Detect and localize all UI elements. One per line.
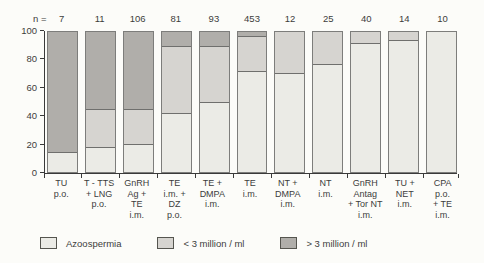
y-tick-label: 40 bbox=[0, 110, 37, 121]
segment-3-million-ml bbox=[124, 109, 153, 144]
n-value-label: 7 bbox=[59, 13, 64, 24]
legend-swatch-gt3million bbox=[280, 237, 297, 249]
segment-3-million-ml bbox=[86, 32, 115, 109]
legend-swatch-lt3million bbox=[157, 237, 174, 249]
segment-azoospermia bbox=[86, 147, 115, 172]
x-tick-mark bbox=[44, 174, 45, 178]
n-value-label: 25 bbox=[323, 13, 334, 24]
segment-3-million-ml bbox=[162, 46, 191, 113]
bar-nt-i-m bbox=[312, 31, 343, 173]
category-label-te-dmpa-i-m: TE +DMPAi.m. bbox=[197, 178, 228, 220]
n-value-label: 12 bbox=[285, 13, 296, 24]
n-value-label: 10 bbox=[437, 13, 448, 24]
segment-azoospermia bbox=[427, 32, 456, 172]
n-value-label: 81 bbox=[171, 13, 182, 24]
n-value-label: 14 bbox=[399, 13, 410, 24]
n-value-label: 106 bbox=[130, 13, 146, 24]
legend-item-lt3million: < 3 million / ml bbox=[157, 237, 244, 249]
bars-container bbox=[47, 31, 457, 173]
sperm-suppression-stacked-bar-chart: n = 71110681934531225401410 020406080100… bbox=[0, 0, 484, 263]
y-tick-label: 100 bbox=[0, 25, 37, 36]
bar-te-dmpa-i-m bbox=[199, 31, 230, 173]
bar-tu-p-o bbox=[47, 31, 78, 173]
n-value-label: 453 bbox=[244, 13, 260, 24]
segment-3-million-ml bbox=[238, 36, 267, 71]
segment-azoospermia bbox=[124, 144, 153, 172]
bar-te-i-m-dz-p-o bbox=[161, 31, 192, 173]
bar-tu-net-i-m bbox=[388, 31, 419, 173]
y-tick-label: 0 bbox=[0, 167, 37, 178]
segment-3-million-ml bbox=[200, 32, 229, 46]
segment-azoospermia bbox=[238, 71, 267, 172]
segment-3-million-ml bbox=[275, 32, 304, 73]
segment-3-million-ml bbox=[351, 32, 380, 43]
legend-swatch-azoospermia bbox=[40, 237, 57, 249]
n-value-label: 40 bbox=[361, 13, 372, 24]
n-prefix-label: n = bbox=[33, 13, 46, 24]
y-tick-label: 80 bbox=[0, 53, 37, 64]
y-tick-label: 20 bbox=[0, 139, 37, 150]
category-labels-row: TUp.o.T - TTS+ LNGp.o.GnRHAg +TEi.m.TEi.… bbox=[46, 178, 458, 220]
bar-cpa-p-o-te-i-m bbox=[426, 31, 457, 173]
category-label-tu-p-o: TUp.o. bbox=[46, 178, 77, 220]
bar-nt-dmpa-i-m bbox=[274, 31, 305, 173]
bar-gnrh-ag-te-i-m bbox=[123, 31, 154, 173]
bar-te-i-m bbox=[237, 31, 268, 173]
legend-item-gt3million: > 3 million / ml bbox=[280, 237, 367, 249]
category-label-tu-net-i-m: TU +NETi.m. bbox=[389, 178, 420, 220]
segment-3-million-ml bbox=[313, 32, 342, 64]
n-value-label: 93 bbox=[209, 13, 220, 24]
category-label-te-i-m-dz-p-o: TEi.m. +DZp.o. bbox=[159, 178, 190, 220]
legend-label-lt3million: < 3 million / ml bbox=[183, 238, 244, 249]
y-tick-label: 60 bbox=[0, 82, 37, 93]
legend-item-azoospermia: Azoospermia bbox=[40, 237, 121, 249]
segment-3-million-ml bbox=[389, 32, 418, 40]
legend: Azoospermia < 3 million / ml > 3 million… bbox=[40, 237, 367, 249]
segment-azoospermia bbox=[200, 102, 229, 172]
segment-azoospermia bbox=[275, 73, 304, 172]
legend-label-gt3million: > 3 million / ml bbox=[306, 238, 367, 249]
bar-t-tts-lng-p-o bbox=[85, 31, 116, 173]
segment-azoospermia bbox=[351, 43, 380, 172]
x-tick-mark bbox=[458, 174, 459, 178]
legend-label-azoospermia: Azoospermia bbox=[66, 238, 121, 249]
segment-azoospermia bbox=[48, 152, 77, 172]
category-label-nt-i-m: NTi.m. bbox=[310, 178, 341, 220]
category-label-te-i-m: TEi.m. bbox=[235, 178, 266, 220]
segment-3-million-ml bbox=[48, 32, 77, 152]
category-label-t-tts-lng-p-o: T - TTS+ LNGp.o. bbox=[84, 178, 115, 220]
n-value-label: 11 bbox=[95, 13, 105, 24]
segment-3-million-ml bbox=[200, 46, 229, 102]
segment-azoospermia bbox=[162, 113, 191, 172]
category-label-cpa-p-o-te-i-m: CPAp.o.+ TEi.m. bbox=[427, 178, 458, 220]
plot-area bbox=[44, 31, 457, 174]
category-label-gnrh-antag-tor-nt-i-m: GnRHAntag+ Tor NTi.m. bbox=[348, 178, 383, 220]
segment-3-million-ml bbox=[86, 109, 115, 147]
segment-3-million-ml bbox=[162, 32, 191, 46]
segment-azoospermia bbox=[313, 64, 342, 172]
segment-azoospermia bbox=[389, 40, 418, 172]
category-label-nt-dmpa-i-m: NT +DMPAi.m. bbox=[272, 178, 303, 220]
segment-3-million-ml bbox=[124, 32, 153, 109]
bar-gnrh-antag-tor-nt-i-m bbox=[350, 31, 381, 173]
category-label-gnrh-ag-te-i-m: GnRHAg +TEi.m. bbox=[121, 178, 152, 220]
